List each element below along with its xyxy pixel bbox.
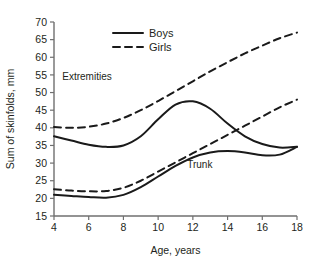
x-tick-label: 6 <box>86 221 92 233</box>
y-axis-ticks: 152025303540455055606570 <box>35 16 54 222</box>
y-tick-label: 45 <box>35 104 47 116</box>
legend-label-girls: Girls <box>149 41 172 53</box>
plot-annotations: ExtremitiesTrunk <box>62 71 213 170</box>
legend-label-boys: Boys <box>149 27 174 39</box>
chart-legend: Boys Girls <box>113 27 174 53</box>
x-axis-ticks: 4681012141618 <box>51 216 303 233</box>
y-tick-label: 60 <box>35 51 47 63</box>
skinfolds-line-chart: 152025303540455055606570 4681012141618 E… <box>0 0 316 266</box>
x-tick-label: 4 <box>51 221 57 233</box>
x-tick-label: 14 <box>222 221 234 233</box>
x-tick-label: 12 <box>187 221 199 233</box>
y-tick-label: 40 <box>35 121 47 133</box>
x-tick-label: 10 <box>152 221 164 233</box>
y-tick-label: 15 <box>35 210 47 222</box>
y-tick-label: 35 <box>35 139 47 151</box>
x-axis-title: Age, years <box>150 244 200 256</box>
y-tick-label: 55 <box>35 69 47 81</box>
x-tick-label: 16 <box>256 221 268 233</box>
y-axis-title: Sum of skinfolds, mm <box>4 69 16 170</box>
chart-figure: 152025303540455055606570 4681012141618 E… <box>0 0 316 266</box>
annotation-extremities: Extremities <box>62 71 111 82</box>
curve-boys-trunk <box>54 147 297 198</box>
data-curves <box>54 33 297 198</box>
y-tick-label: 65 <box>35 33 47 45</box>
curve-boys-extremities <box>54 101 297 148</box>
y-tick-label: 25 <box>35 174 47 186</box>
annotation-trunk: Trunk <box>187 159 213 170</box>
x-tick-label: 8 <box>121 221 127 233</box>
x-tick-label: 18 <box>291 221 303 233</box>
y-tick-label: 70 <box>35 16 47 28</box>
y-tick-label: 20 <box>35 192 47 204</box>
y-tick-label: 30 <box>35 157 47 169</box>
y-tick-label: 50 <box>35 86 47 98</box>
